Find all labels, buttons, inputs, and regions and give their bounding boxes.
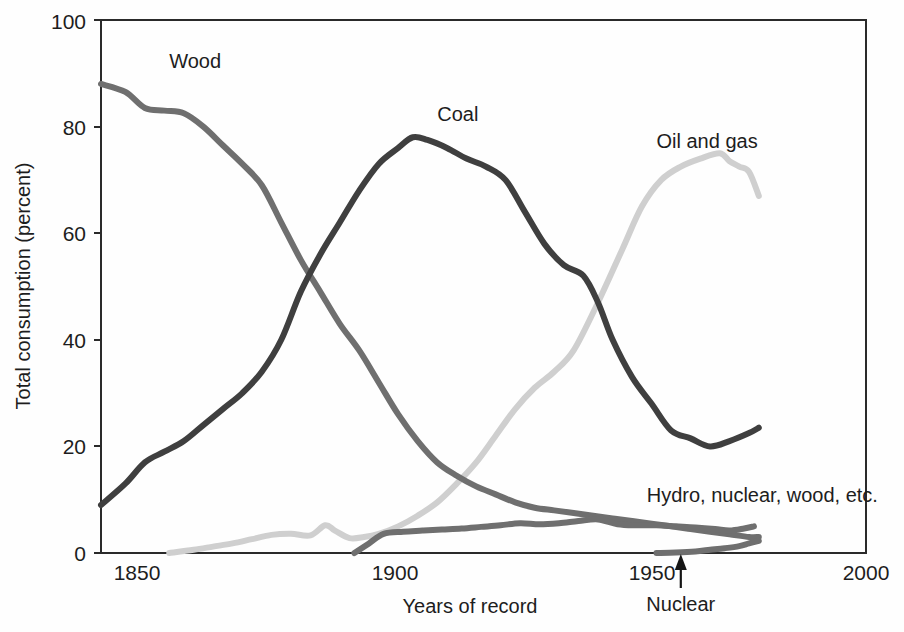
series-line-coal bbox=[101, 137, 759, 505]
series-label-oil-and-gas: Oil and gas bbox=[657, 130, 758, 152]
y-axis-tick-labels: 0 20 40 60 80 100 bbox=[51, 10, 86, 565]
y-axis-title: Total consumption (percent) bbox=[12, 163, 34, 410]
series-label-hydro: Hydro, nuclear, wood, etc. bbox=[647, 484, 878, 506]
x-tick-label-1900: 1900 bbox=[372, 561, 419, 584]
y-tick-label-0: 0 bbox=[74, 542, 86, 565]
x-tick-label-1850: 1850 bbox=[114, 561, 161, 584]
series-label-wood: Wood bbox=[169, 50, 221, 72]
y-tick-label-20: 20 bbox=[63, 435, 86, 458]
y-tick-label-60: 60 bbox=[63, 222, 86, 245]
x-tick-label-2000: 2000 bbox=[843, 561, 890, 584]
series-line-hydro-nuclear-wood bbox=[354, 519, 754, 553]
series-curves bbox=[101, 84, 759, 553]
energy-consumption-chart: 0 20 40 60 80 100 1850 1900 1950 2000 Ye… bbox=[0, 0, 904, 632]
x-tick-label-1950: 1950 bbox=[629, 561, 676, 584]
series-labels: Wood Coal Oil and gas Hydro, nuclear, wo… bbox=[169, 50, 878, 506]
series-label-coal: Coal bbox=[437, 103, 478, 125]
nuclear-arrow-head bbox=[675, 554, 687, 570]
y-tick-label-40: 40 bbox=[63, 329, 86, 352]
x-axis-title: Years of record bbox=[403, 595, 538, 617]
series-line-wood bbox=[101, 84, 759, 537]
plot-frame bbox=[101, 20, 866, 553]
y-tick-label-80: 80 bbox=[63, 116, 86, 139]
annotation-label-nuclear: Nuclear bbox=[646, 593, 715, 615]
x-axis-tick-labels: 1850 1900 1950 2000 bbox=[114, 561, 890, 584]
y-axis-ticks bbox=[94, 20, 101, 553]
chart-canvas: 0 20 40 60 80 100 1850 1900 1950 2000 Ye… bbox=[0, 0, 904, 632]
series-line-nuclear bbox=[656, 541, 758, 553]
y-tick-label-100: 100 bbox=[51, 10, 86, 33]
